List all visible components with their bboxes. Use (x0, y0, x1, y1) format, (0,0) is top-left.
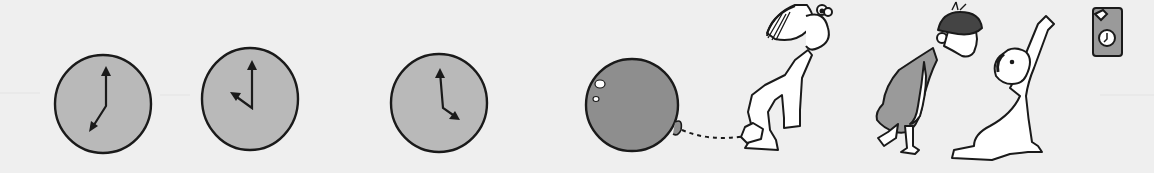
background-texture (0, 93, 1154, 95)
clock-3-icon (391, 54, 487, 152)
child-figure-2 (877, 2, 982, 154)
wall-clock-icon (1093, 8, 1122, 56)
clock-2-icon (202, 48, 298, 150)
clock-1-icon (55, 55, 151, 153)
child-figure-1 (741, 5, 832, 150)
ball-icon (586, 59, 745, 151)
illustration-scene: Illustration: three clocks, a ball tied … (0, 0, 1154, 173)
